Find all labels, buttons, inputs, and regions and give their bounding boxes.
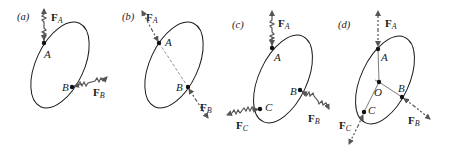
force-label-fc-d: FC: [339, 119, 352, 133]
point-a-b: [157, 41, 161, 45]
point-a-d: [376, 47, 380, 51]
point-label-b-c: B: [290, 85, 297, 97]
point-b-b: [186, 85, 190, 89]
point-label-a-b: A: [164, 36, 172, 48]
force-arrowhead-fc-c-in: [252, 109, 258, 110]
force-label-fb-a: FB: [93, 86, 105, 100]
force-arrowhead-fb-d-in: [404, 99, 414, 107]
point-label-a-c: A: [273, 51, 281, 63]
force-label-fc-c: FC: [236, 119, 249, 133]
force-label-fb-d: FB: [408, 114, 420, 128]
force-label-fa-b: FA: [146, 11, 158, 25]
line-ao-d: [378, 49, 379, 82]
point-c-d: [362, 110, 366, 114]
force-label-fa-d: FA: [385, 17, 397, 31]
force-label-fb-c: FB: [308, 112, 320, 126]
line-of-action-ab-b: [159, 43, 188, 87]
force-label-fb-b: FB: [200, 101, 212, 115]
force-arrow-fb-d: [414, 106, 430, 119]
force-arrowhead-fa-b-in: [152, 30, 158, 41]
point-a-c: [270, 46, 274, 50]
point-label-a-a: A: [43, 48, 51, 60]
point-o-d: [377, 80, 381, 84]
point-a-a: [42, 41, 46, 45]
point-c-c: [258, 107, 262, 111]
panel-b: (b) A FA B FB: [122, 11, 215, 118]
force-label-fa-a: FA: [51, 11, 63, 25]
point-b-a: [70, 85, 74, 89]
panel-d: (d) O A FA B FB C FC: [338, 11, 430, 144]
point-label-o-d: O: [374, 86, 382, 98]
point-label-a-d: A: [380, 51, 388, 63]
force-diagram-figure: (a) A FA B FB (b) A FA B: [0, 0, 450, 149]
point-label-b-d: B: [398, 82, 405, 94]
point-label-c-c: C: [265, 101, 273, 113]
panel-label-a: (a): [17, 11, 30, 23]
panel-label-d: (d): [338, 19, 351, 31]
point-label-c-d: C: [368, 104, 376, 116]
force-label-fa-c: FA: [278, 17, 290, 31]
panel-a: (a) A FA B FB: [17, 9, 107, 117]
panel-label-b: (b): [122, 11, 135, 23]
force-arrowhead-fb-b-in: [189, 89, 196, 100]
panel-label-c: (c): [232, 19, 244, 31]
point-b-c: [298, 88, 302, 92]
rigid-body-ellipse-a: [19, 13, 101, 117]
point-label-b-a: B: [62, 81, 69, 93]
panel-c: (c) A FA B FB C FC: [227, 11, 329, 133]
point-label-b-b: B: [176, 81, 183, 93]
point-b-d: [400, 95, 404, 99]
